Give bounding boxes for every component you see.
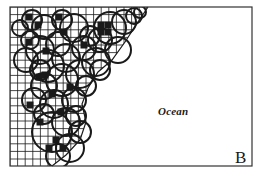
panel-label: B	[235, 148, 246, 168]
map-canvas	[0, 0, 263, 177]
map-figure: Ocean B	[0, 0, 263, 177]
sample-circle	[66, 106, 86, 126]
filled-cell	[26, 14, 33, 21]
filled-cell	[56, 14, 63, 21]
filled-cell	[27, 102, 34, 109]
filled-cell	[105, 22, 112, 29]
ocean-label: Ocean	[158, 105, 188, 117]
